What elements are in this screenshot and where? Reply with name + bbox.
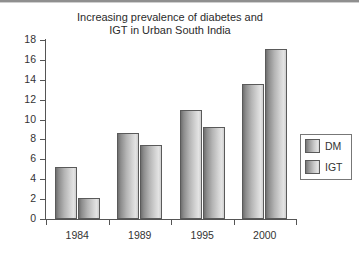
y-axis-tick-label: 14 [0, 73, 36, 85]
y-axis-tick [40, 40, 45, 41]
bar-igt-1989 [140, 145, 162, 219]
bar-igt-1984 [78, 198, 100, 219]
y-axis-tick-label: 18 [0, 33, 36, 45]
legend-swatch-dm [305, 139, 320, 153]
y-axis-tick-label: 12 [0, 93, 36, 105]
chart-title-line-1: Increasing prevalence of diabetes and [45, 11, 295, 24]
legend-item-igt[interactable]: IGT [305, 159, 349, 175]
x-axis-tick [109, 220, 110, 225]
y-axis-tick-label: 0 [0, 212, 36, 224]
plot-area [46, 40, 296, 219]
y-axis-tick-label: 6 [0, 152, 36, 164]
y-axis-tick-label: 2 [0, 192, 36, 204]
y-axis-tick [40, 159, 45, 160]
y-axis-tick-label: 8 [0, 132, 36, 144]
x-axis-label-2000: 2000 [235, 229, 295, 241]
x-axis-tick [296, 220, 297, 225]
legend-swatch-igt [305, 160, 320, 174]
y-axis-tick [40, 100, 45, 101]
bar-dm-1995 [180, 110, 202, 219]
x-axis-label-1984: 1984 [47, 229, 107, 241]
x-axis-label-1989: 1989 [110, 229, 170, 241]
x-axis-tick [234, 220, 235, 225]
y-axis-tick [40, 139, 45, 140]
bar-igt-1995 [203, 127, 225, 219]
legend: DM IGT [300, 134, 352, 180]
top-border-rule-shadow [0, 2, 359, 3]
y-axis-tick [40, 199, 45, 200]
bar-dm-1984 [55, 167, 77, 219]
x-axis-label-1995: 1995 [172, 229, 232, 241]
bar-dm-1989 [117, 133, 139, 219]
y-axis-tick-label: 4 [0, 172, 36, 184]
y-axis-tick [40, 179, 45, 180]
y-axis-tick [40, 120, 45, 121]
bar-igt-2000 [265, 49, 287, 219]
y-axis-tick-label: 10 [0, 113, 36, 125]
legend-label-igt: IGT [325, 160, 343, 174]
x-axis-tick [46, 220, 47, 225]
x-axis-tick [171, 220, 172, 225]
bar-chart-figure: Increasing prevalence of diabetes and IG… [0, 0, 359, 253]
chart-title-line-2: IGT in Urban South India [45, 24, 295, 37]
bar-dm-2000 [242, 84, 264, 219]
y-axis-tick-label: 16 [0, 53, 36, 65]
y-axis-tick [40, 219, 45, 220]
y-axis-tick [40, 80, 45, 81]
legend-item-dm[interactable]: DM [305, 138, 349, 154]
y-axis-tick [40, 60, 45, 61]
legend-label-dm: DM [325, 139, 341, 153]
chart-title: Increasing prevalence of diabetes and IG… [45, 11, 295, 37]
